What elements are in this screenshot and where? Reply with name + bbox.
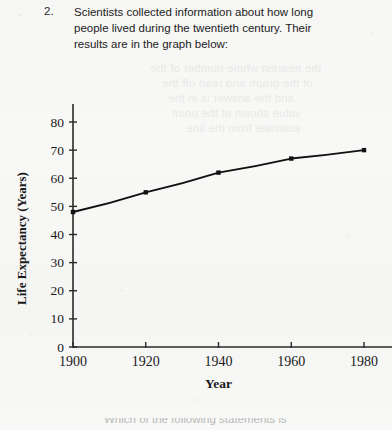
y-tick-label: 20 [51,283,65,298]
y-tick-label: 0 [57,340,64,355]
data-point-marker [71,210,75,214]
chart-canvas: 0102030405060708019001920194019601980Yea… [0,100,392,390]
y-tick-label: 10 [51,311,65,326]
y-axis-title: Life Expectancy (Years) [14,172,29,305]
y-tick-label: 80 [51,115,65,130]
y-tick-label: 70 [51,143,65,158]
data-point-marker [289,156,293,160]
x-tick-label: 1980 [350,354,378,369]
y-tick-label: 50 [51,199,65,214]
data-point-marker [362,148,366,152]
footer-cropped-text: Which of the following statements is [104,418,287,425]
y-tick-label: 60 [51,171,65,186]
question-number: 2. [44,5,54,17]
x-tick-label: 1900 [59,354,87,369]
data-point-marker [216,170,220,174]
question-text: Scientists collected information about h… [74,5,326,52]
x-tick-label: 1960 [277,354,305,369]
footer-cropped-question: Which of the following statements is [104,418,334,430]
data-point-marker [144,190,148,194]
y-tick-label: 30 [51,255,65,270]
x-tick-label: 1920 [132,354,160,369]
x-axis-title: Year [205,376,232,390]
x-tick-label: 1940 [205,354,233,369]
y-tick-label: 40 [51,227,65,242]
life-expectancy-chart: 0102030405060708019001920194019601980Yea… [0,100,392,390]
data-line [73,150,364,212]
